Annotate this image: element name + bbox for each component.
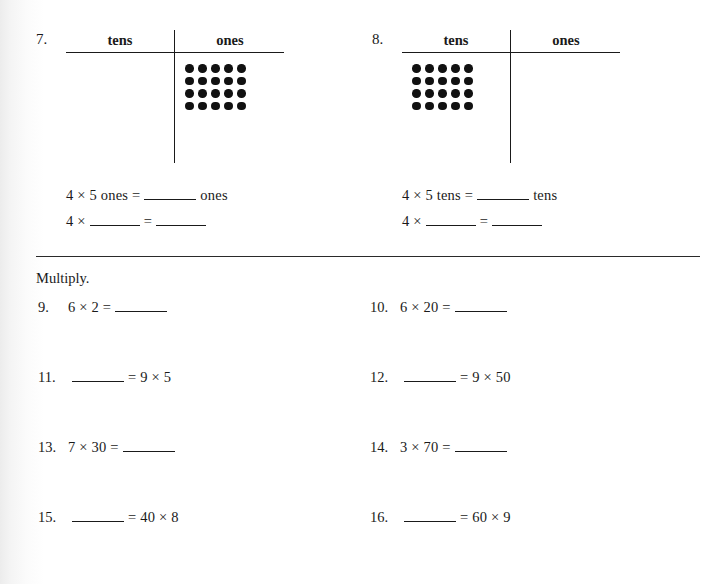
worksheet-page: 7. tens ones 4 × 5 ones = ones 4 × bbox=[0, 0, 713, 584]
problem-7-chart-horizontal-rule bbox=[66, 52, 284, 53]
place-value-dot bbox=[425, 77, 434, 86]
problem-7-equation-1-lead: 4 × 5 ones = bbox=[66, 182, 140, 208]
place-value-dot bbox=[185, 64, 194, 73]
place-value-dot bbox=[198, 89, 207, 98]
problem-number: 10. bbox=[370, 299, 396, 316]
answer-blank[interactable] bbox=[72, 368, 124, 382]
problem-8-ones-header: ones bbox=[512, 30, 620, 50]
problem-number: 15. bbox=[38, 509, 64, 526]
problem-7: 7. tens ones 4 × 5 ones = ones 4 × bbox=[36, 30, 284, 165]
problem-expression-before-blank: 6 × 20 = bbox=[400, 299, 451, 316]
place-value-dot bbox=[211, 102, 220, 111]
multiply-problem-row: 9.6 × 2 =10.6 × 20 = bbox=[0, 298, 713, 368]
place-value-dot bbox=[412, 77, 421, 86]
place-value-dot bbox=[224, 64, 233, 73]
place-value-dot bbox=[237, 102, 246, 111]
place-value-dot bbox=[451, 102, 460, 111]
place-value-dot bbox=[185, 89, 194, 98]
place-value-dot bbox=[211, 89, 220, 98]
multiply-problem-16: 16.= 60 × 9 bbox=[370, 508, 511, 526]
problem-number: 11. bbox=[38, 369, 64, 386]
problem-8: 8. tens ones 4 × 5 tens = tens 4 × bbox=[372, 30, 620, 165]
place-value-dot bbox=[425, 89, 434, 98]
problem-8-equation-2: 4 × = bbox=[402, 208, 557, 234]
multiply-problem-13: 13.7 × 30 = bbox=[38, 438, 179, 456]
place-value-dot bbox=[438, 89, 447, 98]
problem-expression-after-blank: = 9 × 5 bbox=[128, 369, 171, 386]
problem-8-equation-2-blank-1[interactable] bbox=[426, 212, 476, 226]
problem-expression-before-blank: 7 × 30 = bbox=[68, 439, 119, 456]
problem-expression-after-blank: = 40 × 8 bbox=[128, 509, 179, 526]
multiply-instruction: Multiply. bbox=[36, 270, 89, 287]
place-value-dot bbox=[412, 64, 421, 73]
place-value-dot bbox=[464, 64, 473, 73]
problem-number: 14. bbox=[370, 439, 396, 456]
place-value-dot bbox=[198, 64, 207, 73]
answer-blank[interactable] bbox=[123, 438, 175, 452]
problem-number: 13. bbox=[38, 439, 64, 456]
multiply-problem-row: 11.= 9 × 512.= 9 × 50 bbox=[0, 368, 713, 438]
answer-blank[interactable] bbox=[404, 368, 456, 382]
answer-blank[interactable] bbox=[455, 438, 507, 452]
multiply-problem-14: 14.3 × 70 = bbox=[370, 438, 511, 456]
problem-8-equation-2-blank-2[interactable] bbox=[492, 212, 542, 226]
problem-7-equation-2: 4 × = bbox=[66, 208, 228, 234]
problem-expression-after-blank: = 9 × 50 bbox=[460, 369, 511, 386]
place-value-dot bbox=[185, 102, 194, 111]
problem-7-equation-1-blank[interactable] bbox=[144, 186, 196, 200]
problem-7-chart-vertical-rule bbox=[174, 30, 175, 163]
multiply-problem-15: 15.= 40 × 8 bbox=[38, 508, 179, 526]
place-value-dot bbox=[438, 64, 447, 73]
place-value-dot bbox=[438, 77, 447, 86]
problem-7-equation-1-trailer: ones bbox=[200, 182, 227, 208]
place-value-dot bbox=[237, 89, 246, 98]
problem-8-equation-1: 4 × 5 tens = tens bbox=[402, 182, 557, 208]
problem-number: 9. bbox=[38, 299, 64, 316]
section-divider-rule bbox=[36, 256, 700, 257]
problem-expression-before-blank: 6 × 2 = bbox=[68, 299, 111, 316]
place-value-dot bbox=[224, 89, 233, 98]
place-value-dot bbox=[464, 77, 473, 86]
problem-7-equation-2-lead: 4 × bbox=[66, 208, 86, 234]
place-value-dot bbox=[412, 102, 421, 111]
problem-8-chart-vertical-rule bbox=[510, 30, 511, 163]
place-value-dot bbox=[451, 64, 460, 73]
problem-8-chart-headers: tens ones bbox=[402, 30, 620, 52]
place-value-dot bbox=[425, 102, 434, 111]
answer-blank[interactable] bbox=[455, 298, 507, 312]
place-value-dot bbox=[198, 102, 207, 111]
problem-8-equation-2-lead: 4 × bbox=[402, 208, 422, 234]
problem-number: 12. bbox=[370, 369, 396, 386]
answer-blank[interactable] bbox=[72, 508, 124, 522]
place-value-dot bbox=[237, 64, 246, 73]
place-value-dot bbox=[211, 77, 220, 86]
problem-7-equation-1: 4 × 5 ones = ones bbox=[66, 182, 228, 208]
problem-7-dot-array bbox=[183, 62, 248, 112]
answer-blank[interactable] bbox=[404, 508, 456, 522]
place-value-dot bbox=[451, 77, 460, 86]
problem-7-equation-2-equals: = bbox=[144, 208, 152, 234]
place-value-dot bbox=[237, 77, 246, 86]
problem-7-ones-header: ones bbox=[176, 30, 284, 50]
problem-8-chart-horizontal-rule bbox=[402, 52, 620, 53]
problem-7-equations: 4 × 5 ones = ones 4 × = bbox=[66, 182, 228, 234]
place-value-dot bbox=[224, 102, 233, 111]
place-value-dot bbox=[412, 89, 421, 98]
problem-7-tens-header: tens bbox=[66, 30, 174, 50]
problem-expression-after-blank: = 60 × 9 bbox=[460, 509, 511, 526]
problem-7-equation-2-blank-2[interactable] bbox=[156, 212, 206, 226]
answer-blank[interactable] bbox=[115, 298, 167, 312]
problem-8-equation-1-blank[interactable] bbox=[477, 186, 529, 200]
multiply-problem-11: 11.= 9 × 5 bbox=[38, 368, 171, 386]
place-value-dot bbox=[451, 89, 460, 98]
problem-7-chart-headers: tens ones bbox=[66, 30, 284, 52]
multiply-problem-9: 9.6 × 2 = bbox=[38, 298, 171, 316]
multiply-problem-10: 10.6 × 20 = bbox=[370, 298, 511, 316]
place-value-dot bbox=[425, 64, 434, 73]
place-value-dot bbox=[464, 89, 473, 98]
problem-8-place-value-chart: tens ones bbox=[402, 30, 620, 165]
problem-8-equation-1-trailer: tens bbox=[533, 182, 557, 208]
problem-8-tens-header: tens bbox=[402, 30, 510, 50]
problem-7-equation-2-blank-1[interactable] bbox=[90, 212, 140, 226]
place-value-dot bbox=[211, 64, 220, 73]
